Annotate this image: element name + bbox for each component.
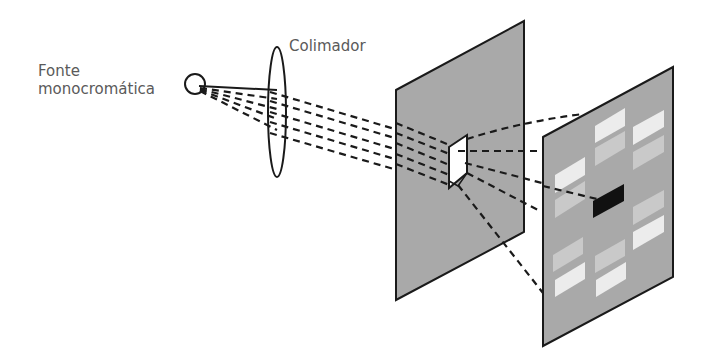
source-label-line2: monocromática xyxy=(38,80,155,98)
diffraction-diagram: Fonte monocromática Colimador xyxy=(0,0,707,359)
source-label-line1: Fonte xyxy=(38,62,155,80)
source-label: Fonte monocromática xyxy=(38,62,155,98)
collimator-label: Colimador xyxy=(289,37,366,55)
source-rays xyxy=(199,86,277,130)
